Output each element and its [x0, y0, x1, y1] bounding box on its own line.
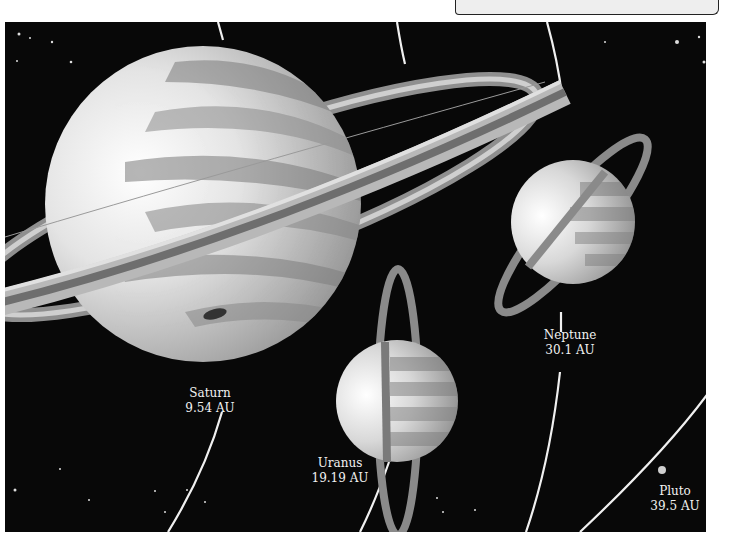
neptune-label: Neptune 30.1 AU: [530, 328, 610, 358]
saturn-distance: 9.54 AU: [170, 401, 250, 416]
neptune-planet: [511, 160, 640, 284]
caption-note-box: [455, 0, 719, 15]
uranus-label: Uranus 19.19 AU: [300, 456, 380, 486]
uranus-distance: 19.19 AU: [300, 471, 380, 486]
uranus-name: Uranus: [300, 456, 380, 471]
neptune-distance: 30.1 AU: [530, 343, 610, 358]
uranus-planet: [336, 340, 470, 462]
saturn-name: Saturn: [170, 386, 250, 401]
pluto-name: Pluto: [635, 484, 706, 499]
pluto-planet: [658, 466, 666, 474]
pluto-label: Pluto 39.5 AU: [635, 484, 706, 514]
pluto-distance: 39.5 AU: [635, 499, 706, 514]
space-illustration: Saturn 9.54 AU Uranus 19.19 AU Neptune 3…: [5, 22, 706, 532]
saturn-label: Saturn 9.54 AU: [170, 386, 250, 416]
neptune-name: Neptune: [530, 328, 610, 343]
